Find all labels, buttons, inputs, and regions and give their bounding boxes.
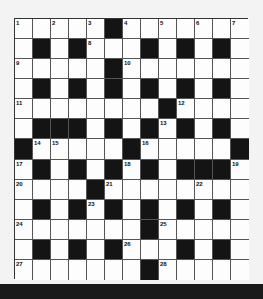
- grid-cell[interactable]: [69, 260, 87, 280]
- grid-cell[interactable]: [123, 200, 141, 220]
- grid-cell[interactable]: 18: [123, 160, 141, 180]
- grid-cell[interactable]: 2: [51, 19, 69, 39]
- grid-cell[interactable]: 15: [51, 139, 69, 159]
- grid-cell[interactable]: [69, 180, 87, 200]
- grid-cell[interactable]: 25: [159, 220, 177, 240]
- grid-cell[interactable]: 21: [105, 180, 123, 200]
- grid-cell[interactable]: [159, 240, 177, 260]
- grid-cell[interactable]: 1: [15, 19, 33, 39]
- grid-cell[interactable]: 17: [15, 160, 33, 180]
- grid-cell[interactable]: [69, 59, 87, 79]
- grid-cell[interactable]: [15, 240, 33, 260]
- grid-cell[interactable]: [51, 39, 69, 59]
- grid-cell[interactable]: [195, 99, 213, 119]
- grid-cell[interactable]: [231, 119, 249, 139]
- grid-cell[interactable]: [33, 260, 51, 280]
- grid-cell[interactable]: [159, 160, 177, 180]
- grid-cell[interactable]: [105, 220, 123, 240]
- grid-cell[interactable]: [195, 240, 213, 260]
- grid-cell[interactable]: [141, 99, 159, 119]
- grid-cell[interactable]: [195, 200, 213, 220]
- grid-cell[interactable]: [87, 119, 105, 139]
- grid-cell[interactable]: [33, 19, 51, 39]
- grid-cell[interactable]: [105, 139, 123, 159]
- grid-cell[interactable]: 6: [195, 19, 213, 39]
- grid-cell[interactable]: [141, 19, 159, 39]
- grid-cell[interactable]: [15, 119, 33, 139]
- grid-cell[interactable]: 13: [159, 119, 177, 139]
- grid-cell[interactable]: 22: [195, 180, 213, 200]
- grid-cell[interactable]: [87, 160, 105, 180]
- grid-cell[interactable]: 10: [123, 59, 141, 79]
- grid-cell[interactable]: [213, 220, 231, 240]
- grid-cell[interactable]: 28: [159, 260, 177, 280]
- grid-cell[interactable]: [231, 240, 249, 260]
- grid-cell[interactable]: [177, 220, 195, 240]
- grid-cell[interactable]: 24: [15, 220, 33, 240]
- grid-cell[interactable]: [87, 240, 105, 260]
- grid-cell[interactable]: [231, 59, 249, 79]
- grid-cell[interactable]: [51, 160, 69, 180]
- grid-cell[interactable]: 14: [33, 139, 51, 159]
- grid-cell[interactable]: [213, 59, 231, 79]
- grid-cell[interactable]: [33, 220, 51, 240]
- grid-cell[interactable]: [159, 39, 177, 59]
- grid-cell[interactable]: [87, 139, 105, 159]
- grid-cell[interactable]: [123, 260, 141, 280]
- grid-cell[interactable]: [195, 119, 213, 139]
- grid-cell[interactable]: [123, 39, 141, 59]
- grid-cell[interactable]: [231, 39, 249, 59]
- grid-cell[interactable]: [51, 99, 69, 119]
- grid-cell[interactable]: [159, 59, 177, 79]
- grid-cell[interactable]: [231, 180, 249, 200]
- grid-cell[interactable]: [177, 59, 195, 79]
- grid-cell[interactable]: [159, 139, 177, 159]
- grid-cell[interactable]: 26: [123, 240, 141, 260]
- grid-cell[interactable]: [141, 59, 159, 79]
- grid-cell[interactable]: [87, 260, 105, 280]
- grid-cell[interactable]: 16: [141, 139, 159, 159]
- grid-cell[interactable]: [195, 79, 213, 99]
- grid-cell[interactable]: 12: [177, 99, 195, 119]
- grid-cell[interactable]: [105, 99, 123, 119]
- grid-cell[interactable]: 9: [15, 59, 33, 79]
- grid-cell[interactable]: [87, 59, 105, 79]
- grid-cell[interactable]: [195, 260, 213, 280]
- grid-cell[interactable]: [33, 180, 51, 200]
- grid-cell[interactable]: [195, 59, 213, 79]
- grid-cell[interactable]: [51, 79, 69, 99]
- grid-cell[interactable]: [231, 79, 249, 99]
- grid-cell[interactable]: 7: [231, 19, 249, 39]
- grid-cell[interactable]: [195, 220, 213, 240]
- grid-cell[interactable]: [231, 260, 249, 280]
- grid-cell[interactable]: [51, 240, 69, 260]
- grid-cell[interactable]: [51, 220, 69, 240]
- grid-cell[interactable]: [177, 260, 195, 280]
- grid-cell[interactable]: [123, 220, 141, 240]
- grid-cell[interactable]: [69, 99, 87, 119]
- grid-cell[interactable]: [213, 19, 231, 39]
- grid-cell[interactable]: 23: [87, 200, 105, 220]
- grid-cell[interactable]: 5: [159, 19, 177, 39]
- grid-cell[interactable]: [231, 200, 249, 220]
- grid-cell[interactable]: [87, 99, 105, 119]
- grid-cell[interactable]: [177, 19, 195, 39]
- grid-cell[interactable]: [159, 200, 177, 220]
- grid-cell[interactable]: [15, 79, 33, 99]
- grid-cell[interactable]: [231, 220, 249, 240]
- grid-cell[interactable]: [159, 180, 177, 200]
- grid-cell[interactable]: [87, 79, 105, 99]
- grid-cell[interactable]: 3: [87, 19, 105, 39]
- grid-cell[interactable]: [141, 180, 159, 200]
- grid-cell[interactable]: [69, 19, 87, 39]
- grid-cell[interactable]: [213, 99, 231, 119]
- grid-cell[interactable]: [123, 79, 141, 99]
- grid-cell[interactable]: [33, 99, 51, 119]
- grid-cell[interactable]: [51, 59, 69, 79]
- grid-cell[interactable]: [177, 139, 195, 159]
- grid-cell[interactable]: [15, 200, 33, 220]
- grid-cell[interactable]: [33, 59, 51, 79]
- grid-cell[interactable]: 27: [15, 260, 33, 280]
- grid-cell[interactable]: 11: [15, 99, 33, 119]
- grid-cell[interactable]: [51, 180, 69, 200]
